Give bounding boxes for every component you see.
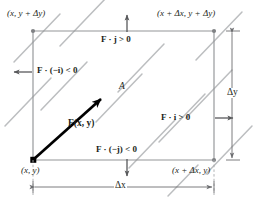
corner-dot-top-left (31, 29, 35, 33)
vector-label: F(x, y) (68, 119, 94, 129)
corner-dots-group (31, 29, 216, 162)
field-line (206, 126, 252, 174)
corner-label-bottom-right: (x + Δx, y) (172, 166, 210, 175)
corner-label-top-left: (x, y + Δy) (7, 9, 45, 18)
flux-label-left: F · (−i) < 0 (37, 66, 77, 75)
field-line (5, 78, 51, 126)
flux-label-top: F · j > 0 (101, 35, 131, 44)
flux-label-right: F · i > 0 (161, 113, 190, 122)
corner-dot-top-right (212, 29, 216, 33)
flux-diagram-figure: (x, y + Δy) (x + Δx, y + Δy) (x, y) (x +… (0, 0, 258, 202)
region-label-A: A (119, 82, 125, 92)
corner-label-bottom-left: (x, y) (21, 166, 39, 175)
field-vector-arrow (34, 99, 101, 159)
field-line (14, 14, 60, 62)
rectangle-region-A (33, 31, 214, 160)
corner-label-top-right: (x + Δx, y + Δy) (157, 9, 215, 18)
delta-y-label: Δy (226, 88, 239, 98)
field-line (60, 0, 106, 46)
field-line (196, 12, 242, 60)
flux-label-bottom: F · (−j) < 0 (96, 145, 137, 154)
delta-x-label: Δx (114, 181, 127, 191)
